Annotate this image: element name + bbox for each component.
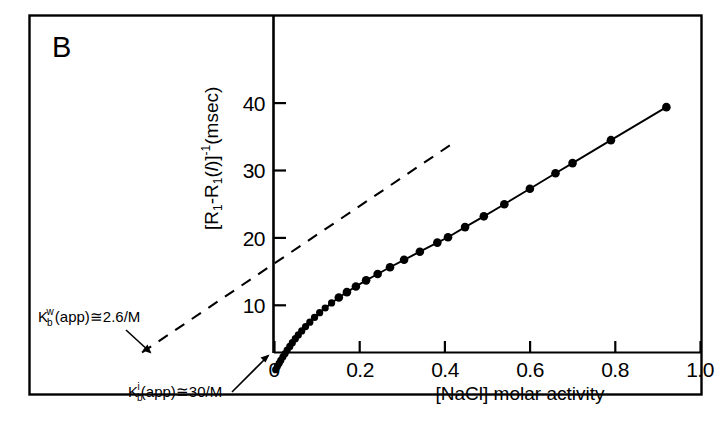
x-tick-label-10: 1.0 <box>686 358 714 381</box>
svg-text:Kbi(app)≅30/M: Kbi(app)≅30/M <box>128 381 222 403</box>
svg-text:Kbw(app)≅2.6/M: Kbw(app)≅2.6/M <box>38 306 140 328</box>
x-tick-label-06: 0.6 <box>516 358 544 381</box>
y-axis-title: [R1-R1(l)]-1(msec) <box>199 87 225 230</box>
data-point <box>322 304 329 311</box>
data-point <box>343 288 352 297</box>
kbw-rest: (app)≅2.6/M <box>55 308 141 325</box>
kbw-superscript: w <box>46 306 55 317</box>
ylabel-r1b: R <box>201 184 222 198</box>
data-point <box>444 233 453 242</box>
x-tick-label-04: 0.4 <box>431 358 460 381</box>
data-point-markers <box>272 103 671 373</box>
data-point <box>386 263 395 272</box>
x-axis-title: [NaCl] molar activity <box>436 383 605 404</box>
kbw-subscript: b <box>47 317 53 328</box>
data-point <box>662 103 671 112</box>
x-tick-label-08: 0.8 <box>601 358 629 381</box>
x-tick-label-02: 0.2 <box>346 358 374 381</box>
y-tick-label-40: 40 <box>243 92 265 115</box>
x-axis-ticks <box>275 341 701 352</box>
y-axis-ticks <box>274 103 286 305</box>
data-point <box>373 270 382 279</box>
data-point <box>461 223 470 232</box>
data-point <box>551 169 560 178</box>
data-point <box>316 309 323 316</box>
data-point <box>526 184 535 193</box>
figure-panel-b: B 10 20 30 40 0 <box>0 0 728 421</box>
panel-label: B <box>52 31 71 63</box>
svg-text:[R1-R1(l)]-1(msec): [R1-R1(l)]-1(msec) <box>199 87 225 230</box>
limiting-tangent-dashed-line <box>142 141 457 353</box>
x-axis-tick-labels: 0 0.2 0.4 0.6 0.8 1.0 <box>268 358 713 381</box>
y-tick-label-30: 30 <box>243 159 265 182</box>
y-tick-label-20: 20 <box>243 227 265 250</box>
data-point <box>362 276 371 285</box>
data-point <box>328 299 335 306</box>
data-point <box>480 212 489 221</box>
ylabel-r1: R <box>201 211 222 225</box>
data-point <box>607 136 616 145</box>
figure-border <box>30 16 702 395</box>
kbi-rest: (app)≅30/M <box>141 383 222 400</box>
data-point <box>335 293 344 302</box>
kbw-annotation: Kbw(app)≅2.6/M <box>38 306 152 354</box>
data-point <box>400 256 409 265</box>
chart-canvas: B 10 20 30 40 0 <box>0 0 728 421</box>
kbi-arrow-shaft <box>232 356 268 392</box>
data-curve-line <box>276 107 667 370</box>
data-point <box>352 282 361 291</box>
y-tick-label-10: 10 <box>243 294 265 317</box>
kbi-superscript: i <box>138 381 140 392</box>
data-point <box>416 247 425 256</box>
data-point <box>568 159 577 168</box>
kbi-annotation: Kbi(app)≅30/M <box>128 355 270 404</box>
data-point <box>500 200 509 209</box>
data-point <box>433 238 442 247</box>
ylabel-units: (msec) <box>201 87 222 145</box>
ylabel-exponent: -1 <box>199 144 213 155</box>
